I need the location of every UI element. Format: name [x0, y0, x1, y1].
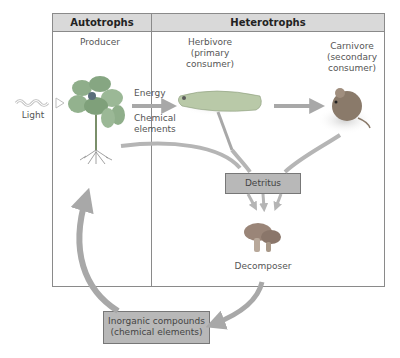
diagram-graphics — [0, 0, 400, 358]
mouse-carnivore-icon — [317, 88, 373, 134]
detritus-to-decomposer-arrows — [248, 194, 281, 208]
mushroom-decomposer-icon — [244, 223, 281, 252]
plant-producer-icon — [68, 76, 125, 164]
producer-to-detritus-arrow — [121, 144, 240, 168]
decomposer-to-inorganic-arrow — [214, 282, 262, 324]
inorganic-to-producer-arrow — [79, 198, 118, 311]
light-wave-icon — [16, 98, 64, 108]
carnivore-to-detritus-arrow — [285, 135, 340, 172]
caterpillar-herbivore-icon — [178, 91, 261, 150]
